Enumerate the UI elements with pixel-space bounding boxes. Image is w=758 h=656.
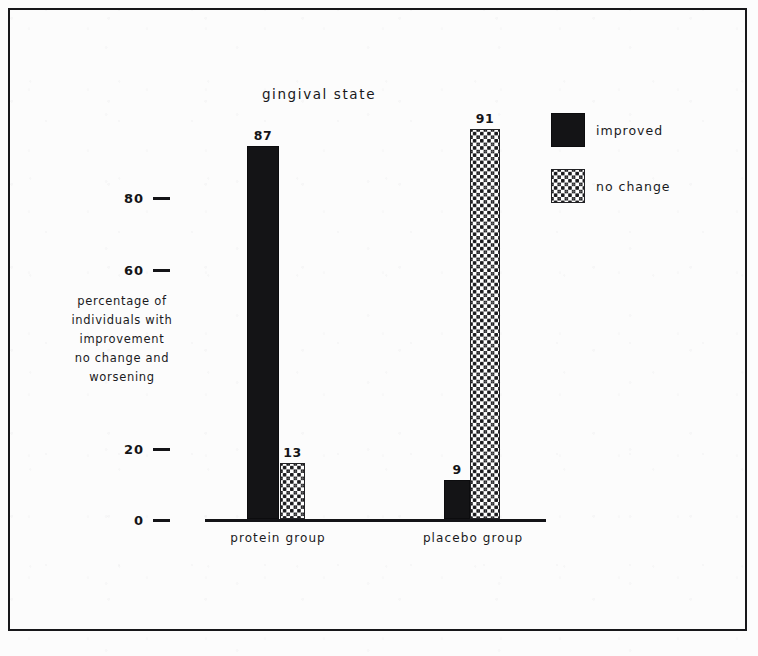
x-axis-category-placebo-group: placebo group (408, 531, 538, 545)
bar-value-label: 13 (283, 445, 301, 460)
bar-placebo-group-no-change[interactable]: 91 (470, 129, 500, 519)
y-axis-label-line-3: improvement (44, 330, 200, 349)
bar-placebo-group-improved[interactable]: 9 (444, 480, 470, 519)
x-axis-baseline (205, 519, 546, 522)
y-axis-label-line-4: no change and (44, 349, 200, 368)
legend-item-improved[interactable]: improved (551, 113, 671, 147)
legend-swatch-solid-icon (551, 113, 585, 147)
y-axis-tick-0: 0 (78, 513, 170, 528)
legend-label-no-change: no change (596, 179, 671, 194)
bar-value-label: 91 (476, 111, 494, 126)
y-axis-tick-mark (153, 269, 170, 272)
y-axis-tick-80-label: 80 (124, 191, 144, 206)
x-axis-category-protein-group: protein group (213, 531, 343, 545)
chart-title: gingival state (0, 86, 698, 102)
bar-value-label: 9 (452, 462, 461, 477)
y-axis-tick-60-label: 60 (124, 263, 144, 278)
y-axis-label-line-1: percentage of (44, 292, 200, 311)
y-axis-tick-mark (153, 448, 170, 451)
bar-value-label: 87 (254, 128, 272, 143)
y-axis-tick-20-label: 20 (124, 442, 144, 457)
y-axis-tick-80: 80 (78, 191, 170, 206)
bar-protein-group-improved[interactable]: 87 (247, 146, 279, 519)
y-axis-label: percentage of individuals with improveme… (44, 292, 200, 387)
y-axis-label-line-2: individuals with (44, 311, 200, 330)
legend-swatch-hatch-icon (551, 169, 585, 203)
y-axis-tick-mark (153, 197, 170, 200)
bar-chart: gingival state 80 60 20 0 percentage of … (0, 0, 758, 656)
legend-item-no-change[interactable]: no change (551, 169, 671, 203)
y-axis-label-line-5: worsening (44, 368, 200, 387)
y-axis-tick-0-label: 0 (134, 513, 144, 528)
y-axis-tick-20: 20 (78, 442, 170, 457)
y-axis-tick-mark (153, 519, 170, 522)
chart-legend: improved no change (551, 113, 671, 225)
y-axis-tick-60: 60 (78, 263, 170, 278)
chart-page: gingival state 80 60 20 0 percentage of … (0, 0, 758, 656)
legend-label-improved: improved (596, 123, 663, 138)
bar-protein-group-no-change[interactable]: 13 (280, 463, 305, 519)
